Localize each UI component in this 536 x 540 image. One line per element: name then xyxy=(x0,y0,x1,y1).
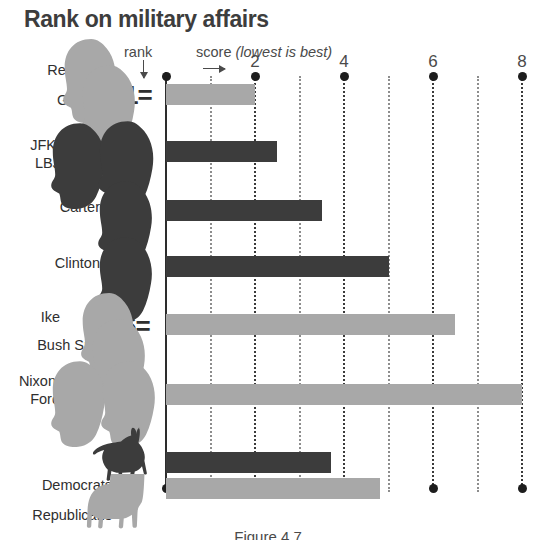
tick-dot-top-8 xyxy=(518,72,527,81)
chart-figure: Rank on military affairs rank score (low… xyxy=(0,0,536,540)
row-label-2-primary: Carter xyxy=(60,200,100,215)
rank-value-5: 8 xyxy=(135,381,148,412)
x-tick-label-8: 8 xyxy=(517,52,526,72)
row-label-5-secondary: Ford xyxy=(30,392,60,407)
x-tick-label-6: 6 xyxy=(428,52,437,72)
bar-row-4 xyxy=(166,314,455,335)
row-label-0-primary: Reagan xyxy=(47,63,98,78)
x-tick-label-2: 2 xyxy=(250,52,259,72)
row-label-4-secondary: Bush Sr. xyxy=(37,338,92,353)
gridline-minor-7 xyxy=(477,76,479,492)
row-label-4-primary: Ike xyxy=(41,310,60,325)
bar-row-5 xyxy=(166,384,522,405)
bar-row-1 xyxy=(166,141,277,162)
row-label-3-primary: Clinton xyxy=(55,256,100,271)
tick-dot-origin-top xyxy=(162,72,171,81)
bar-row-0 xyxy=(166,84,255,105)
rank-value-1: 3 xyxy=(133,139,146,170)
bar-row-6 xyxy=(166,452,331,473)
x-tick-label-4: 4 xyxy=(339,52,348,72)
rank-value-3: 5 xyxy=(133,253,146,284)
row-label-1-secondary: LBJ xyxy=(35,156,60,171)
silhouette-head-reagan xyxy=(60,36,119,126)
silhouette-head-ford xyxy=(98,358,159,451)
tick-dot-bottom-8 xyxy=(518,484,527,493)
gridline-major-2 xyxy=(254,76,256,492)
y-axis-line xyxy=(165,72,167,492)
tick-dot-bottom-6 xyxy=(429,484,438,493)
donkey-icon xyxy=(88,424,160,482)
row-label-6-primary: Democrats xyxy=(42,478,112,493)
tick-dot-top-4 xyxy=(340,72,349,81)
silhouette-head-lbj xyxy=(95,118,157,213)
gridline-minor-1 xyxy=(210,76,212,492)
rank-value-2: 4 xyxy=(133,197,146,228)
tick-dot-top-2 xyxy=(251,72,260,81)
row-label-7-primary: Republicans xyxy=(32,508,112,523)
gridline-major-6 xyxy=(432,76,434,492)
bar-row-2 xyxy=(166,200,322,221)
figure-caption: Figure 4.7 xyxy=(0,528,536,540)
gridline-major-4 xyxy=(343,76,345,492)
bar-row-3 xyxy=(166,256,389,277)
gridline-minor-3 xyxy=(299,76,301,492)
silhouette-head-carter xyxy=(95,178,156,271)
gridline-major-8 xyxy=(521,76,523,492)
plot-area: 2468 ReaganGWJFK/LBJCarterClintonIkeBush… xyxy=(0,0,536,540)
gridline-minor-5 xyxy=(388,76,390,492)
bar-row-7 xyxy=(166,478,380,499)
tick-dot-top-6 xyxy=(429,72,438,81)
row-label-5-primary: Nixon/ xyxy=(19,374,60,389)
rank-value-0: 1= xyxy=(124,80,152,111)
rank-value-4: 6= xyxy=(122,311,150,342)
row-label-0-secondary: GW xyxy=(57,93,82,108)
row-label-1-primary: JFK/ xyxy=(30,138,60,153)
